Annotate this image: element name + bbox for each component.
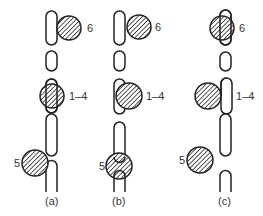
label-6: 6 xyxy=(87,22,93,34)
panel-b: 6 1–4 5 (b) xyxy=(99,11,164,207)
label-6: 6 xyxy=(155,21,161,33)
panel-c: 6 1–4 5 (c) xyxy=(179,10,254,207)
caption-c: (c) xyxy=(218,195,231,207)
label-5: 5 xyxy=(99,160,105,172)
label-6: 6 xyxy=(239,22,245,34)
label-1-4: 1–4 xyxy=(236,90,254,102)
diagram-canvas: 6 1–4 5 (a) 6 1–4 5 xyxy=(0,0,263,216)
label-5: 5 xyxy=(179,154,185,166)
sphere-5 xyxy=(106,153,132,179)
rod-lower xyxy=(220,114,231,156)
figure-diagram: 6 1–4 5 (a) 6 1–4 5 xyxy=(0,0,263,216)
sphere-5 xyxy=(187,147,213,173)
rod-top xyxy=(46,11,57,45)
sphere-1-4 xyxy=(195,83,221,109)
caption-a: (a) xyxy=(45,195,58,207)
rod-small xyxy=(220,52,231,71)
sphere-1-4 xyxy=(40,84,64,108)
sphere-6 xyxy=(57,16,81,40)
rod-middle xyxy=(221,78,232,114)
label-1-4: 1–4 xyxy=(69,90,87,102)
rod-small xyxy=(114,51,125,71)
rod-top xyxy=(114,11,125,45)
rod-lower xyxy=(46,114,57,156)
label-5: 5 xyxy=(14,157,20,169)
caption-b: (b) xyxy=(112,195,125,207)
panel-a: 6 1–4 5 (a) xyxy=(14,11,93,207)
rod-small xyxy=(46,51,57,71)
sphere-1-4 xyxy=(116,83,142,109)
rod-bottom-arch xyxy=(220,171,231,193)
sphere-6 xyxy=(127,15,151,39)
sphere-5 xyxy=(22,150,48,176)
label-1-4: 1–4 xyxy=(146,90,164,102)
